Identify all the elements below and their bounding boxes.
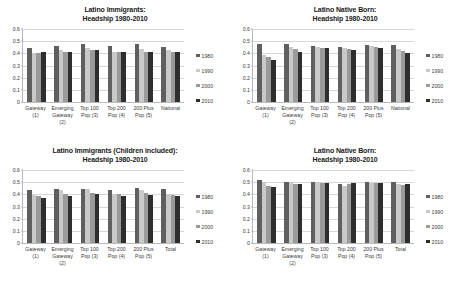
legend-item-1990[interactable]: 1990 [196, 204, 230, 219]
bar-2010 [121, 196, 126, 243]
x-axis-labels-bottom-right: Gateway(1)EmergingGateway(2)Top 100Pop (… [252, 246, 414, 267]
legend-item-2010[interactable]: 2010 [426, 93, 460, 108]
y-axis-tick-label: 0.1 [13, 87, 20, 93]
x-axis-tick-label-line: (1) [253, 112, 278, 119]
chart-panel-top-left: Latino Immigrants: Headship 1980-2010 00… [0, 0, 230, 141]
legend-top-left: 1980199020002010 [196, 48, 230, 108]
x-axis-tick-label-line: Top 200 [104, 105, 129, 112]
bar-2010 [95, 194, 100, 243]
chart-title-top-left: Latino Immigrants: Headship 1980-2010 [0, 0, 230, 23]
bar-group [103, 170, 130, 243]
bar-group [333, 29, 360, 102]
x-axis-tick-label: Top 200Pop (4) [333, 246, 360, 267]
x-axis-tick-label: Gateway(1) [252, 105, 279, 126]
legend-item-1990[interactable]: 1990 [426, 204, 460, 219]
legend-label: 1980 [432, 53, 444, 59]
bar-2010 [351, 183, 356, 243]
x-axis-tick-label-line: Pop (5) [131, 253, 156, 260]
bar-2010 [121, 52, 126, 102]
legend-item-2000[interactable]: 2000 [196, 78, 230, 93]
bar-group [23, 29, 50, 102]
y-axis-tick-label: 0.4 [13, 50, 20, 56]
bar-group [333, 170, 360, 243]
y-axis-tick-label: 0.6 [243, 167, 250, 173]
y-axis-tick-label: 0.3 [243, 204, 250, 210]
legend-item-2010[interactable]: 2010 [196, 93, 230, 108]
bar-group [253, 170, 280, 243]
bar-group [130, 170, 157, 243]
x-axis-tick-label-line: (2) [280, 260, 305, 267]
legend-swatch-icon [196, 210, 200, 214]
y-axis-tick-label: 0.2 [13, 75, 20, 81]
x-axis-labels-top-left: Gateway(1)EmergingGateway(2)Top 100Pop (… [22, 105, 184, 126]
y-axis-tick-label: 0.3 [13, 204, 20, 210]
x-axis-tick-label-line: 200 Plus [131, 105, 156, 112]
y-axis-tick-label: 0.4 [243, 191, 250, 197]
plot-wrap-bottom-right: 00.10.20.30.40.50.6 Gateway(1)EmergingGa… [230, 167, 460, 282]
legend-item-2000[interactable]: 2000 [196, 219, 230, 234]
legend-label: 1980 [202, 194, 214, 200]
x-axis-tick-label-line: Pop (4) [334, 112, 359, 119]
legend-item-2010[interactable]: 2010 [196, 234, 230, 249]
y-axis-tick-label: 0.2 [243, 75, 250, 81]
legend-label: 2010 [432, 239, 444, 245]
y-axis-tick-label: 0.5 [13, 179, 20, 185]
legend-item-2000[interactable]: 2000 [426, 219, 460, 234]
bar-2010 [325, 48, 330, 102]
legend-item-2010[interactable]: 2010 [426, 234, 460, 249]
bar-group [50, 170, 77, 243]
bar-group [360, 170, 387, 243]
legend-bottom-right: 1980199020002010 [426, 189, 460, 249]
legend-swatch-icon [196, 225, 200, 229]
x-axis-tick-label-line: Gateway [280, 253, 305, 260]
bar-group [307, 170, 334, 243]
plot-wrap-top-left: 00.10.20.30.40.50.6 Gateway(1)EmergingGa… [0, 26, 230, 141]
x-axis-tick-label-line: (1) [253, 253, 278, 260]
x-axis-tick-label: EmergingGateway(2) [279, 246, 306, 267]
bar-group [253, 29, 280, 102]
legend-swatch-icon [426, 225, 430, 229]
plot-area-top-right: 00.10.20.30.40.50.6 [252, 29, 414, 103]
x-axis-tick-label-line: National [158, 105, 183, 112]
legend-label: 1980 [202, 53, 214, 59]
x-axis-tick-label-line: Top 100 [77, 246, 102, 253]
x-axis-tick-label-line: Gateway [50, 112, 75, 119]
x-axis-tick-label-line: Emerging [50, 105, 75, 112]
legend-item-1980[interactable]: 1980 [426, 189, 460, 204]
legend-item-1990[interactable]: 1990 [196, 63, 230, 78]
legend-swatch-icon [196, 84, 200, 88]
x-axis-tick-label-line: Total [158, 246, 183, 253]
x-axis-tick-label: Total [387, 246, 414, 267]
x-axis-tick-label: 200 PlusPop (5) [130, 246, 157, 267]
y-axis-tick-label: 0 [17, 240, 20, 246]
plot-area-bottom-left: 00.10.20.30.40.50.6 [22, 170, 184, 244]
x-axis-tick-label-line: Pop (5) [361, 253, 386, 260]
legend-item-1980[interactable]: 1980 [196, 189, 230, 204]
y-axis-tick-label: 0 [247, 99, 250, 105]
bar-group [77, 170, 104, 243]
bar-group [103, 29, 130, 102]
legend-item-1990[interactable]: 1990 [426, 63, 460, 78]
legend-label: 2000 [202, 224, 214, 230]
bar-2010 [271, 60, 276, 102]
bar-2010 [175, 52, 180, 102]
bar-group [280, 29, 307, 102]
x-axis-tick-label: Top 100Pop (3) [306, 105, 333, 126]
legend-item-2000[interactable]: 2000 [426, 78, 460, 93]
chart-title-line2: Headship 1980-2010 [0, 14, 230, 23]
legend-label: 2010 [432, 98, 444, 104]
bar-group [23, 170, 50, 243]
x-axis-tick-label-line: Pop (3) [307, 112, 332, 119]
bar-group [77, 29, 104, 102]
bar-group [307, 29, 334, 102]
bar-groups [23, 170, 184, 243]
bar-2010 [41, 52, 46, 102]
y-axis-tick-label: 0.5 [243, 179, 250, 185]
legend-label: 1990 [202, 209, 214, 215]
y-axis-tick-label: 0.1 [243, 87, 250, 93]
bar-2010 [68, 196, 73, 243]
x-axis-tick-label-line: Pop (5) [361, 112, 386, 119]
legend-item-1980[interactable]: 1980 [196, 48, 230, 63]
x-axis-labels-bottom-left: Gateway(1)EmergingGateway(2)Top 100Pop (… [22, 246, 184, 267]
legend-item-1980[interactable]: 1980 [426, 48, 460, 63]
